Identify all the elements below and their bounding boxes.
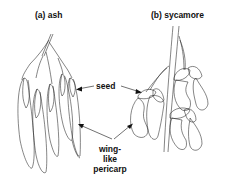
arrow-head-icon (76, 87, 82, 92)
annotation-arrows (76, 86, 142, 139)
arrow-head-icon (127, 124, 133, 130)
panel-label-sycamore: (b) sycamore (151, 11, 204, 20)
wing-like-pericarp-label: wing- like pericarp (92, 144, 128, 174)
wing-label-line-3: pericarp (92, 164, 128, 174)
arrow-head-icon (136, 89, 143, 94)
fruit-dispersal-diagram: (a) ash (b) sycamore seed wing- like per… (0, 0, 229, 187)
seed-label: seed (96, 82, 115, 91)
wing-label-line-1: wing- (92, 144, 128, 154)
ash-fruit-cluster (18, 34, 80, 173)
panel-label-ash: (a) ash (35, 11, 62, 20)
wing-label-line-2: like (92, 154, 128, 164)
sycamore-fruit-cluster (131, 26, 208, 152)
